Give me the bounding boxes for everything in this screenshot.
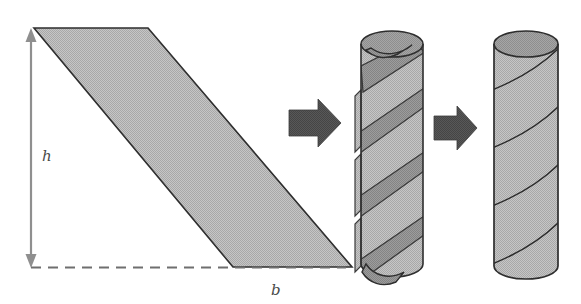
geometry-figure: h b [0,0,581,304]
right-arrow-icon [289,99,341,147]
smooth-cylinder-top-cap [494,31,558,57]
step-notch-3 [355,218,361,272]
figure-canvas: h b [0,0,581,304]
smooth-cylinder-body [494,44,558,279]
base-label: b [271,281,281,299]
step-notch-2 [355,154,361,216]
transform-arrow-1 [289,99,341,147]
transform-arrow-2 [434,106,477,150]
parallelogram-group [34,28,352,267]
smooth-cylinder-group [492,31,560,279]
height-label: h [42,147,52,165]
twisted-cylinder-group [355,31,425,285]
right-arrow-icon-2 [434,106,477,150]
height-dimension-arrow [26,28,37,268]
height-arrowhead-down [26,254,37,268]
step-notch-1 [355,90,361,152]
strip-step-edges [355,90,361,272]
parallelogram-shape [34,28,352,267]
